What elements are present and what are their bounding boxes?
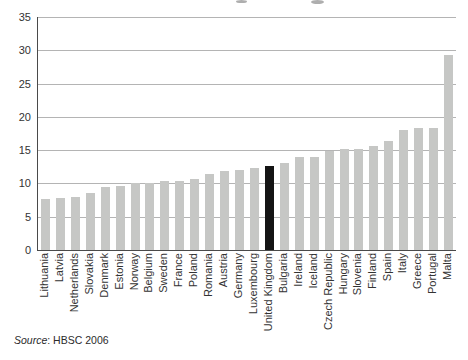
bar-latvia xyxy=(56,198,65,250)
bar-sweden xyxy=(160,181,169,250)
y-tick-label-25: 25 xyxy=(5,78,31,90)
bar-spain xyxy=(384,141,393,250)
y-tick-label-15: 15 xyxy=(5,144,31,156)
gridline-y-20 xyxy=(38,117,456,118)
y-tick-label-5: 5 xyxy=(5,211,31,223)
y-tick-label-35: 35 xyxy=(5,11,31,23)
x-tick-label-denmark: Denmark xyxy=(98,253,111,298)
bar-greece xyxy=(414,128,423,250)
x-tick-label-netherlands: Netherlands xyxy=(68,253,81,312)
y-tick-label-0: 0 xyxy=(5,244,31,256)
x-tick-label-belgium: Belgium xyxy=(142,253,155,293)
x-tick-label-bulgaria: Bulgaria xyxy=(277,253,290,293)
bar-norway xyxy=(131,183,140,250)
bar-bulgaria xyxy=(280,163,289,250)
x-tick-label-latvia: Latvia xyxy=(53,253,66,282)
bar-iceland xyxy=(310,157,319,250)
bar-luxembourg xyxy=(250,168,259,250)
y-tick-label-30: 30 xyxy=(5,44,31,56)
x-tick-label-poland: Poland xyxy=(187,253,200,287)
x-tick-label-slovenia: Slovenia xyxy=(351,253,364,295)
bar-france xyxy=(175,181,184,250)
x-tick-label-luxembourg: Luxembourg xyxy=(247,253,260,314)
gridline-y-25 xyxy=(38,84,456,85)
x-tick-label-lithuania: Lithuania xyxy=(38,253,51,298)
x-tick-label-norway: Norway xyxy=(128,253,141,290)
x-tick-label-greece: Greece xyxy=(411,253,424,289)
bar-netherlands xyxy=(71,197,80,250)
bar-slovenia xyxy=(354,149,363,250)
x-tick-label-iceland: Iceland xyxy=(307,253,320,288)
bar-austria xyxy=(220,171,229,250)
x-tick-label-sweden: Sweden xyxy=(157,253,170,293)
cropped-title-fragment xyxy=(236,0,247,3)
bar-lithuania xyxy=(41,199,50,250)
bar-finland xyxy=(369,146,378,250)
bar-portugal xyxy=(429,128,438,250)
x-tick-label-france: France xyxy=(172,253,185,287)
x-tick-label-austria: Austria xyxy=(217,253,230,287)
gridline-y-35 xyxy=(38,17,456,18)
bar-slovakia xyxy=(86,193,95,250)
x-tick-label-czech-republic: Czech Republic xyxy=(322,253,335,330)
x-tick-label-spain: Spain xyxy=(381,253,394,281)
bar-ireland xyxy=(295,157,304,250)
x-tick-label-malta: Malta xyxy=(441,253,454,280)
x-tick-label-slovakia: Slovakia xyxy=(83,253,96,295)
x-tick-label-ireland: Ireland xyxy=(292,253,305,287)
x-tick-label-hungary: Hungary xyxy=(337,253,350,295)
bar-estonia xyxy=(116,186,125,250)
x-tick-label-finland: Finland xyxy=(366,253,379,289)
source-note: Source: HBSC 2006 xyxy=(14,334,109,346)
bar-hungary xyxy=(340,149,349,250)
bar-italy xyxy=(399,130,408,250)
source-label: Source xyxy=(14,334,47,346)
bar-denmark xyxy=(101,187,110,250)
gridline-y-30 xyxy=(38,50,456,51)
x-tick-label-united-kingdom: United Kingdom xyxy=(262,253,275,331)
bar-belgium xyxy=(145,183,154,250)
x-tick-label-germany: Germany xyxy=(232,253,245,298)
x-tick-label-estonia: Estonia xyxy=(113,253,126,290)
source-text: : HBSC 2006 xyxy=(47,334,108,346)
bar-poland xyxy=(190,179,199,250)
bar-chart-figure: 05101520253035 LithuaniaLatviaNetherland… xyxy=(0,0,468,360)
bar-united-kingdom xyxy=(265,166,274,250)
bar-germany xyxy=(235,170,244,250)
bar-czech-republic xyxy=(325,151,334,250)
bar-malta xyxy=(444,55,453,250)
x-tick-label-italy: Italy xyxy=(396,253,409,273)
bar-romania xyxy=(205,174,214,250)
cropped-title-fragment xyxy=(311,0,324,4)
x-tick-label-romania: Romania xyxy=(202,253,215,297)
plot-area xyxy=(37,17,456,251)
y-tick-label-10: 10 xyxy=(5,177,31,189)
x-tick-label-portugal: Portugal xyxy=(426,253,439,294)
y-tick-label-20: 20 xyxy=(5,111,31,123)
